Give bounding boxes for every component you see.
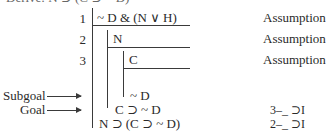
scope-line-middle [107, 30, 108, 108]
line-number-3: 3 [74, 54, 86, 68]
subgoal-arrow-icon [47, 96, 81, 97]
justification-6: 2–_ ⊃I [270, 117, 305, 131]
goal-arrow-icon [47, 110, 81, 111]
formula-subgoal: ~ D [130, 89, 150, 103]
justification-2: Assumption [263, 32, 326, 46]
subgoal-label: Subgoal [3, 89, 46, 103]
scope-line-outer [92, 8, 93, 128]
header-partial: Derive: N ⊃ (C ⊃ ~ D) [6, 0, 129, 5]
assumption-underline-1 [92, 25, 190, 26]
line-number-2: 2 [74, 33, 86, 47]
formula-line-3: C [129, 53, 138, 67]
formula-line-1: ~ D & (N ∨ H) [97, 11, 177, 25]
scope-line-inner [123, 51, 124, 97]
assumption-underline-2 [107, 47, 190, 48]
justification-1: Assumption [263, 11, 326, 25]
assumption-underline-3 [123, 68, 190, 69]
formula-line-2: N [113, 32, 122, 46]
justification-5: 3–_ ⊃I [270, 103, 305, 117]
goal-label: Goal [20, 103, 45, 117]
justification-3: Assumption [263, 53, 326, 67]
formula-goal-inner: C ⊃ ~ D [115, 103, 161, 117]
line-number-1: 1 [74, 12, 86, 26]
formula-goal: N ⊃ (C ⊃ ~ D) [99, 117, 180, 131]
